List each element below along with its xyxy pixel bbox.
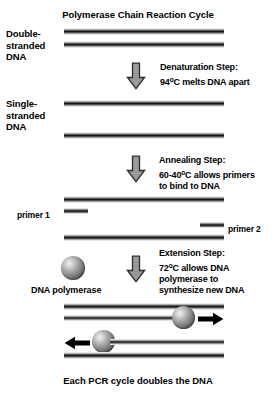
step-text-extension: Extension Step: 72oC allows DNA polymera… bbox=[159, 248, 244, 297]
label-primer-1: primer 1 bbox=[17, 210, 50, 220]
denaturation-line-1: Denaturation Step: bbox=[160, 62, 250, 74]
page-title: Polymerase Chain Reaction Cycle bbox=[0, 9, 276, 20]
primer-2-strand bbox=[200, 222, 224, 228]
pcr-cycle-diagram: Polymerase Chain Reaction Cycle Double- … bbox=[0, 0, 276, 394]
polymerase-sphere-icon-legend bbox=[61, 256, 85, 280]
annealing-line-1: Annealing Step: bbox=[159, 155, 255, 167]
annealing-line-3: to bind to DNA bbox=[159, 181, 255, 193]
dna-strand-template-bottom bbox=[64, 352, 224, 359]
label-single-stranded-line-3: DNA bbox=[6, 121, 45, 133]
primer-1-strand bbox=[64, 208, 88, 214]
label-double-stranded-line-2: stranded bbox=[6, 40, 45, 52]
extension-line-2: 72oC allows DNA bbox=[159, 260, 244, 274]
label-single-stranded-line-1: Single- bbox=[6, 98, 45, 110]
label-double-stranded-line-3: DNA bbox=[6, 51, 45, 63]
dna-new-strand-top bbox=[64, 315, 179, 321]
label-double-stranded-line-1: Double- bbox=[6, 28, 45, 40]
dna-strand-top-stage3 bbox=[64, 196, 224, 203]
right-arrow-icon bbox=[198, 312, 224, 326]
polymerase-sphere-icon-top bbox=[172, 306, 195, 329]
down-arrow-icon-denaturation bbox=[126, 62, 146, 90]
label-single-stranded-line-2: stranded bbox=[6, 110, 45, 122]
extension-line-4: synthesize new DNA bbox=[159, 285, 244, 297]
dna-strand-template-top bbox=[64, 303, 224, 310]
label-dna-polymerase: DNA polymerase bbox=[31, 285, 101, 295]
left-arrow-icon bbox=[64, 336, 90, 350]
extension-line-1: Extension Step: bbox=[159, 248, 244, 260]
extension-line-3: polymerase to bbox=[159, 274, 244, 286]
label-single-stranded-dna: Single- stranded DNA bbox=[6, 98, 45, 133]
denaturation-line-2: 94oC melts DNA apart bbox=[160, 74, 250, 88]
diagram-caption: Each PCR cycle doubles the DNA bbox=[0, 375, 276, 386]
annealing-line-2: 60-40oC allows primers bbox=[159, 167, 255, 181]
label-primer-2: primer 2 bbox=[228, 224, 261, 234]
dna-strand-bottom-stage2 bbox=[64, 132, 224, 139]
dna-strand-bottom-stage3 bbox=[64, 234, 224, 241]
dna-new-strand-bottom bbox=[110, 339, 224, 345]
label-double-stranded-dna: Double- stranded DNA bbox=[6, 28, 45, 63]
dna-strand-bottom-stage1 bbox=[64, 41, 224, 48]
step-text-annealing: Annealing Step: 60-40oC allows primers t… bbox=[159, 155, 255, 192]
step-text-denaturation: Denaturation Step: 94oC melts DNA apart bbox=[160, 62, 250, 88]
dna-strand-top-stage2 bbox=[64, 100, 224, 107]
down-arrow-icon-annealing bbox=[126, 155, 146, 183]
dna-strand-top-stage1 bbox=[64, 28, 224, 35]
down-arrow-icon-extension bbox=[126, 255, 146, 283]
